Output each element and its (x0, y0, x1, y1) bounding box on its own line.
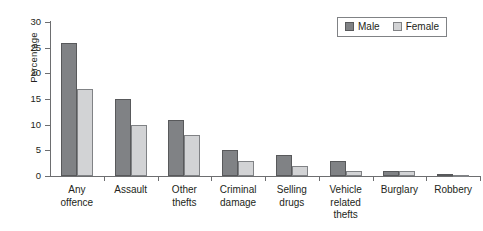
y-axis-line (50, 21, 51, 177)
x-tick-mark (265, 176, 266, 181)
bar-female-4 (292, 166, 308, 176)
y-tick: 25 (0, 48, 50, 49)
legend-item-female: Female (393, 21, 439, 32)
category-label: Otherthefts (158, 184, 212, 209)
bar-female-1 (131, 125, 147, 176)
x-tick-mark (426, 176, 427, 181)
x-tick-mark (319, 176, 320, 181)
bar-male-5 (330, 161, 346, 176)
x-tick-mark (158, 176, 159, 181)
y-tick-label: 5 (36, 144, 45, 155)
x-tick-mark (104, 176, 105, 181)
bar-male-3 (222, 150, 238, 176)
bar-male-2 (168, 120, 184, 176)
y-tick-mark: 0 (45, 176, 50, 177)
y-tick-label: 30 (30, 16, 45, 27)
bar-chart: Percentage 051015202530 AnyoffenceAssaul… (0, 0, 483, 231)
y-tick: 15 (0, 99, 50, 100)
bar-female-5 (346, 171, 362, 176)
bar-male-0 (61, 43, 77, 176)
category-label: Assault (104, 184, 158, 197)
y-tick-label: 10 (30, 119, 45, 130)
bar-female-2 (184, 135, 200, 176)
bar-male-1 (115, 99, 131, 176)
chart-legend: MaleFemale (337, 17, 447, 37)
bar-male-6 (383, 171, 399, 176)
y-tick: 30 (0, 22, 50, 23)
y-tick: 5 (0, 150, 50, 151)
category-label: Sellingdrugs (265, 184, 319, 209)
bar-female-7 (453, 175, 469, 177)
bar-female-3 (238, 161, 254, 176)
category-label: Burglary (373, 184, 427, 197)
y-tick: 10 (0, 125, 50, 126)
bar-male-4 (276, 155, 292, 176)
y-tick-mark: 25 (45, 48, 50, 49)
y-tick-mark: 10 (45, 125, 50, 126)
category-label: Vehiclerelatedthefts (319, 184, 373, 222)
y-tick-mark: 20 (45, 73, 50, 74)
legend-label: Female (406, 21, 439, 32)
legend-label: Male (358, 21, 380, 32)
legend-swatch-icon (345, 22, 354, 31)
legend-swatch-icon (393, 22, 402, 31)
y-tick-mark: 15 (45, 99, 50, 100)
category-label: Robbery (426, 184, 480, 197)
bar-female-0 (77, 89, 93, 176)
y-tick-mark: 30 (45, 22, 50, 23)
y-tick: 0 (0, 176, 50, 177)
category-label: Anyoffence (50, 184, 104, 209)
x-tick-mark (211, 176, 212, 181)
x-tick-mark (373, 176, 374, 181)
legend-item-male: Male (345, 21, 380, 32)
x-tick-mark (480, 176, 481, 181)
y-tick: 20 (0, 73, 50, 74)
y-tick-label: 15 (30, 93, 45, 104)
y-tick-label: 0 (36, 170, 45, 181)
bar-male-7 (437, 174, 453, 176)
y-tick-mark: 5 (45, 150, 50, 151)
y-tick-label: 20 (30, 67, 45, 78)
category-label: Criminaldamage (211, 184, 265, 209)
bar-female-6 (399, 171, 415, 176)
y-tick-label: 25 (30, 42, 45, 53)
